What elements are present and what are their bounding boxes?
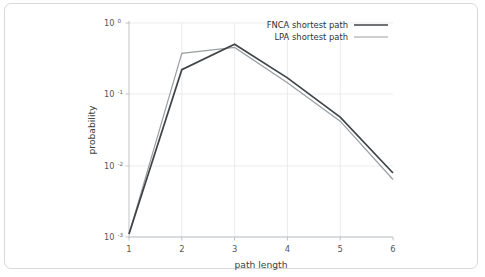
x-tick-label-4: 4: [285, 244, 290, 254]
y-tick-labels: 10 0 10 -1 10 -2 10 -3: [104, 18, 124, 243]
series-line-fnca: [129, 44, 393, 234]
x-axis-title: path length: [234, 259, 287, 270]
y-tick-label-1e0-base: 10: [104, 18, 114, 28]
y-axis-title: probability: [86, 105, 97, 155]
x-tick-marks: [129, 237, 393, 241]
y-tick-label-1e0-exp: 0: [118, 18, 122, 24]
x-gridlines: [182, 23, 340, 237]
y-tick-label-1e-1-exp: -1: [118, 89, 124, 95]
series-group: [129, 44, 393, 234]
x-tick-label-5: 5: [338, 244, 343, 254]
y-tick-label-1e-2-exp: -2: [118, 161, 124, 167]
legend-label-lpa: LPA shortest path: [274, 32, 348, 42]
y-tick-label-1e-2-base: 10: [104, 161, 114, 171]
y-tick-label-1e-3-base: 10: [104, 232, 114, 242]
x-tick-labels: 1 2 3 4 5 6: [126, 244, 395, 254]
y-tick-label-1e-1-base: 10: [104, 89, 114, 99]
chart-root: 10 0 10 -1 10 -2 10 -3 1 2 3 4 5 6 path …: [0, 0, 485, 277]
x-tick-label-6: 6: [390, 244, 395, 254]
x-tick-label-3: 3: [232, 244, 237, 254]
x-tick-label-2: 2: [179, 244, 184, 254]
y-tick-label-1e-3-exp: -3: [118, 232, 124, 238]
series-line-lpa: [129, 47, 393, 234]
y-tick-marks: [126, 23, 130, 237]
chart-plot: 10 0 10 -1 10 -2 10 -3 1 2 3 4 5 6 path …: [0, 0, 485, 277]
legend-label-fnca: FNCA shortest path: [267, 20, 348, 30]
x-tick-label-1: 1: [126, 244, 131, 254]
